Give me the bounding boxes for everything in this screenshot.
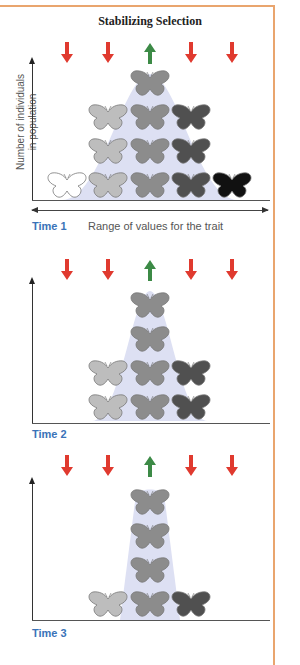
y-axis [32, 482, 33, 621]
arrow-down-icon [225, 259, 239, 281]
y-axis-label: Number of individuals in population [15, 47, 39, 197]
butterfly-icon [130, 70, 170, 97]
butterfly-icon [88, 591, 128, 618]
time-label-3: Time 3 [32, 627, 67, 639]
arrow-down-icon [225, 455, 239, 477]
butterfly-icon [88, 172, 128, 199]
x-axis [32, 620, 270, 621]
arrow-down-icon [184, 455, 198, 477]
arrow-up-icon [143, 455, 157, 477]
arrow-down-icon [60, 455, 74, 477]
arrow-down-icon [60, 259, 74, 281]
trait-range-arrow [32, 210, 268, 211]
butterfly-icon [130, 394, 170, 421]
butterfly-icon [47, 172, 87, 199]
butterfly-icon [171, 104, 211, 131]
butterfly-icon [171, 138, 211, 165]
figure-title: Stabilizing Selection [0, 14, 300, 29]
x-axis-label: Range of values for the trait [88, 220, 223, 232]
arrow-down-icon [101, 259, 115, 281]
x-axis [32, 200, 270, 201]
butterfly-icon [171, 591, 211, 618]
arrow-up-icon [143, 42, 157, 64]
time-label-2: Time 2 [32, 428, 67, 440]
arrow-down-icon [184, 259, 198, 281]
butterfly-icon [88, 394, 128, 421]
butterfly-icon [130, 172, 170, 199]
butterfly-icon [130, 292, 170, 319]
butterfly-icon [130, 104, 170, 131]
arrow-down-icon [101, 455, 115, 477]
y-axis [32, 282, 33, 423]
time-label-1: Time 1 [32, 220, 67, 232]
butterfly-icon [130, 591, 170, 618]
y-axis [32, 62, 33, 200]
butterfly-icon [130, 138, 170, 165]
butterfly-icon [130, 360, 170, 387]
butterfly-icon [130, 489, 170, 516]
butterfly-icon [88, 104, 128, 131]
butterfly-icon [130, 557, 170, 584]
butterfly-icon [88, 138, 128, 165]
butterfly-icon [171, 360, 211, 387]
butterfly-icon [171, 172, 211, 199]
butterfly-icon [130, 523, 170, 550]
butterfly-icon [212, 172, 252, 199]
arrow-down-icon [60, 42, 74, 64]
butterfly-icon [130, 326, 170, 353]
arrow-down-icon [101, 42, 115, 64]
butterfly-icon [88, 360, 128, 387]
butterfly-icon [171, 394, 211, 421]
x-axis [32, 423, 270, 424]
arrow-down-icon [225, 42, 239, 64]
arrow-up-icon [143, 259, 157, 281]
arrow-down-icon [184, 42, 198, 64]
